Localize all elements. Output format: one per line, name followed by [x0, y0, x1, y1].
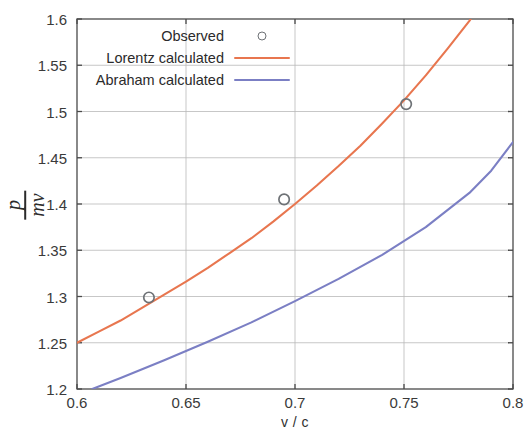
legend-entry[interactable]: Observed	[60, 26, 290, 46]
y-axis-tick-label: 1.2	[0, 381, 67, 398]
legend-open-circle-icon	[258, 32, 267, 41]
x-axis-tick-label: 0.7	[285, 394, 306, 411]
legend-entry[interactable]: Lorentz calculated	[60, 48, 290, 68]
y-axis-tick-label: 1.5	[0, 103, 67, 120]
y-axis-tick-label: 1.4	[0, 196, 67, 213]
legend-label: Lorentz calculated	[106, 50, 224, 66]
legend-label: Abraham calculated	[96, 72, 224, 88]
legend-label: Observed	[161, 28, 224, 44]
y-axis-tick-label: 1.35	[0, 242, 67, 259]
legend-entry[interactable]: Abraham calculated	[60, 70, 290, 90]
legend-marker-swatch	[234, 27, 290, 45]
y-axis-tick-label: 1.6	[0, 11, 67, 28]
legend-line-swatch	[234, 49, 290, 67]
y-axis-tick-label: 1.3	[0, 288, 67, 305]
y-axis-tick-label: 1.55	[0, 57, 67, 74]
legend-line-swatch	[234, 71, 290, 89]
legend-line	[234, 79, 290, 81]
legend-line	[234, 57, 290, 59]
x-axis-tick-label: 0.6	[67, 394, 88, 411]
y-axis-tick-label: 1.45	[0, 149, 67, 166]
observed-data-markers	[144, 99, 412, 303]
x-axis-tick-label: 0.8	[503, 394, 524, 411]
chart-figure: p mv v / c 1.21.251.31.351.41.451.51.551…	[0, 0, 528, 437]
x-axis-tick-label: 0.65	[171, 394, 200, 411]
x-axis-title: v / c	[281, 414, 309, 430]
x-axis-tick-label: 0.75	[389, 394, 418, 411]
y-axis-tick-label: 1.25	[0, 334, 67, 351]
